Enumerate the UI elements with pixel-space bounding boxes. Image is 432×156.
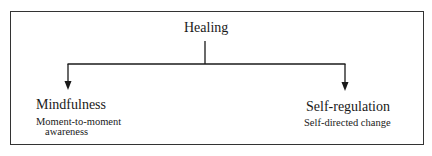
self-regulation-node-title: Self-regulation — [306, 100, 390, 114]
arrowhead-down-icon — [342, 82, 349, 91]
self-regulation-node-description: Self-directed change — [304, 118, 391, 128]
arrowhead-down-icon — [65, 81, 72, 90]
arrow-to-self-regulation — [342, 64, 349, 91]
arrow-to-mindfulness — [65, 64, 72, 90]
root-node-label: Healing — [184, 21, 228, 35]
mindfulness-node-description: Moment-to-moment awareness — [36, 117, 121, 137]
mindfulness-description-line2: awareness — [36, 127, 121, 137]
mindfulness-node-title: Mindfulness — [36, 98, 106, 112]
